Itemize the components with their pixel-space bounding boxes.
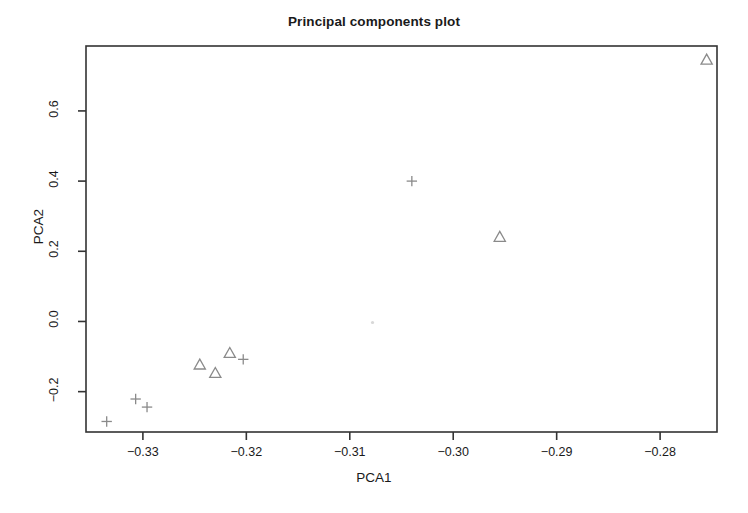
- x-tick-label: −0.30: [437, 445, 469, 459]
- triangle-marker: [224, 348, 235, 358]
- x-tick-label: −0.32: [231, 445, 263, 459]
- x-tick-label: −0.28: [644, 445, 676, 459]
- x-axis-ticks: [143, 432, 660, 440]
- faint-dot-marker: [371, 321, 374, 324]
- y-axis-ticks: [78, 111, 86, 392]
- x-tick-label: −0.31: [334, 445, 366, 459]
- y-tick-label: 0.2: [47, 229, 61, 269]
- y-tick-label: 0.6: [47, 89, 61, 129]
- plus-marker: [238, 354, 248, 364]
- y-tick-label: 0.0: [47, 299, 61, 339]
- scatter-plot-canvas: [0, 0, 748, 513]
- plus-marker: [142, 402, 152, 412]
- plot-frame: [86, 46, 717, 432]
- triangle-marker: [194, 359, 205, 369]
- plot-frame-rect: [86, 46, 717, 432]
- triangle-marker: [494, 231, 505, 241]
- pca-scatter-figure: Principal components plot PCA1 PCA2 −0.3…: [0, 0, 748, 513]
- plus-marker: [101, 416, 111, 426]
- x-tick-label: −0.29: [541, 445, 573, 459]
- plus-marker: [407, 176, 417, 186]
- triangle-marker: [210, 368, 221, 378]
- y-tick-label: −0.2: [47, 370, 61, 410]
- x-tick-label: −0.33: [127, 445, 159, 459]
- y-axis-label: PCA2: [31, 167, 46, 287]
- y-tick-label: 0.4: [47, 159, 61, 199]
- plus-marker: [130, 394, 140, 404]
- triangle-marker: [701, 54, 712, 64]
- x-axis-label: PCA1: [0, 470, 748, 485]
- data-points: [101, 54, 712, 427]
